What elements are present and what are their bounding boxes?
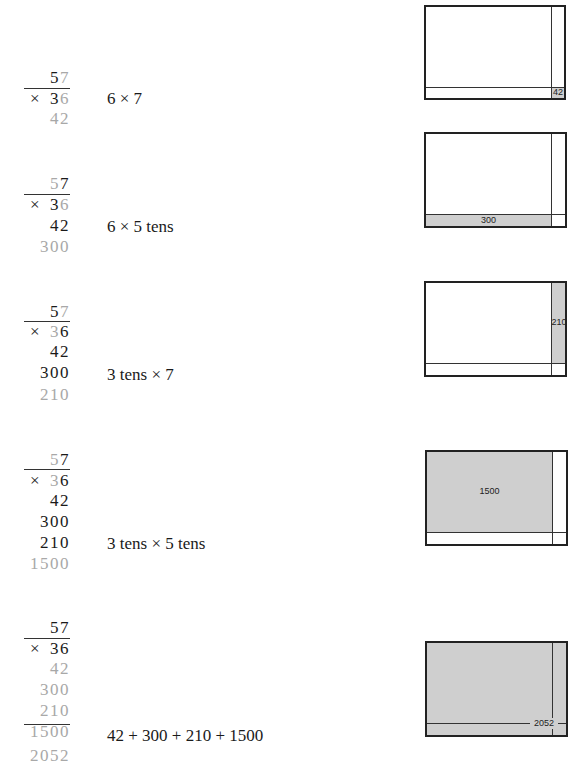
area-model: 2052 [425, 641, 568, 737]
tens-ones-divider-vertical [551, 134, 552, 226]
digit: 0 [50, 237, 60, 257]
partial-product-row: 42 [13, 471, 71, 491]
digit: 1 [30, 554, 40, 574]
area-label: 1500 [427, 486, 552, 497]
multiplicand-row: 57 [13, 598, 71, 618]
partial-product-row: 42 [13, 639, 71, 659]
tens-ones-divider-horizontal [426, 363, 565, 364]
digit: 5 [50, 746, 60, 765]
digit: 2 [60, 109, 70, 129]
multiplier-row: ×36 [0, 619, 70, 639]
area-label: 2052 [530, 718, 558, 729]
multiplicand-row: 57 [13, 282, 71, 302]
step-description: 3 tens × 5 tens [107, 534, 205, 554]
partial-product-row: 1500 [0, 702, 70, 722]
area-model: 42 [424, 5, 566, 100]
product-rule [24, 194, 70, 195]
step-description: 6 × 5 tens [107, 217, 174, 237]
step-description: 3 tens × 7 [107, 365, 174, 385]
area-model: 300 [424, 132, 567, 228]
step-description: 42 + 300 + 210 + 1500 [107, 726, 263, 746]
digit: 0 [50, 554, 60, 574]
partial-product-row: 210 [3, 513, 71, 533]
partial-product-row: 300 [3, 343, 71, 363]
tens-ones-divider-vertical [551, 7, 552, 98]
partial-product-row: 42 [13, 322, 71, 342]
multiplier-row: ×36 [0, 69, 70, 89]
partial-product-row: 42 [13, 196, 71, 216]
sum-rule [24, 724, 70, 725]
area-model: 1500 [425, 450, 568, 546]
partial-product-row: 300 [3, 660, 71, 680]
partial-product-row: 210 [3, 365, 71, 385]
digit: 3 [40, 237, 50, 257]
sum-row: 2052 [0, 726, 70, 746]
product-rule [24, 469, 70, 470]
multiplier-row: ×36 [0, 175, 70, 195]
tens-ones-divider-vertical [552, 452, 553, 544]
multiplicand-row: 57 [13, 48, 71, 68]
digit: 1 [50, 385, 60, 405]
tens-ones-divider-horizontal [427, 532, 566, 533]
partial-product-row: 42 [13, 89, 71, 109]
digit: 4 [50, 109, 60, 129]
partial-product-row: 1500 [0, 534, 70, 554]
digit: 5 [40, 554, 50, 574]
partial-product-row: 210 [3, 681, 71, 701]
multiplicand-row: 57 [13, 430, 71, 450]
digit: 2 [40, 385, 50, 405]
tens-ones-divider-horizontal [426, 87, 564, 88]
multiplier-row: ×36 [0, 302, 70, 322]
partial-product-row: 300 [3, 217, 71, 237]
partial-product-row: 300 [3, 492, 71, 512]
step-description: 6 × 7 [107, 89, 142, 109]
area-label: 42 [550, 87, 566, 98]
digit: 0 [60, 554, 70, 574]
digit: 0 [60, 385, 70, 405]
area-label: 300 [426, 215, 551, 226]
digit: 2 [60, 746, 70, 765]
multiplicand-row: 57 [13, 154, 71, 174]
multiplier-row: ×36 [0, 451, 70, 471]
digit: 0 [60, 237, 70, 257]
tens-ones-divider-vertical [551, 283, 552, 375]
area-label: 210 [550, 317, 568, 328]
digit: 0 [40, 746, 50, 765]
digit: 2 [30, 746, 40, 765]
area-model: 210 [424, 281, 567, 377]
